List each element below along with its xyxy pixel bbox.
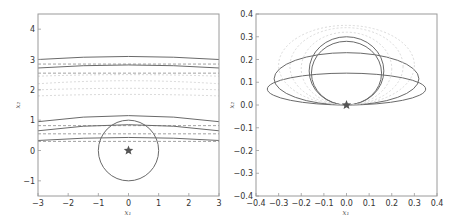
series-circle-inner-2 (309, 37, 384, 105)
x-tick-label: 3 (216, 199, 221, 208)
series-ellipse-faint-3 (279, 25, 415, 105)
y-tick-label: 0.4 (240, 10, 253, 19)
chart-figure: −3−2−10123−101234 −0.4−0.3−0.2−0.10.00.1… (0, 0, 461, 224)
y-tick-label: 2 (30, 86, 35, 95)
star-marker-icon (124, 146, 134, 155)
x-tick-label: −0.3 (269, 199, 288, 208)
x-tick-label: 0.4 (431, 199, 444, 208)
series-upper-faint-4 (38, 94, 219, 96)
y-tick-label: 3 (30, 56, 35, 65)
x-tick-label: −0.2 (292, 199, 311, 208)
y-tick-label: −0.3 (234, 169, 253, 178)
left-plot: −3−2−10123−101234 (23, 14, 221, 208)
y-tick-label: 0 (30, 147, 35, 156)
x-tick-label: −3 (32, 199, 44, 208)
series-lower-faint (38, 116, 219, 122)
series-ellipse-faint-1 (301, 32, 392, 105)
x-tick-label: 0.3 (408, 199, 421, 208)
y-tick-label: 0.3 (240, 33, 253, 42)
y-tick-label: 0.2 (240, 56, 253, 65)
x-tick-label: −1 (92, 199, 104, 208)
series-ellipse-faint-2 (290, 28, 403, 105)
x-tick-label: 2 (186, 199, 191, 208)
x-tick-label: 1 (156, 199, 161, 208)
y-tick-label: −0.1 (234, 124, 253, 133)
y-tick-label: −0.4 (234, 192, 253, 201)
right-plot: −0.4−0.3−0.2−0.10.00.10.20.30.4−0.4−0.3−… (234, 10, 444, 208)
series-upper-solid-dark (38, 56, 219, 59)
y-tick-label: −0.2 (234, 147, 253, 156)
y-tick-label: 0.0 (240, 101, 253, 110)
left-ylabel: x₂ (14, 101, 22, 108)
series-upper-solid-2 (38, 65, 219, 68)
y-tick-label: 4 (30, 25, 35, 34)
series-upper-faint-1 (38, 75, 219, 77)
left-xlabel: x₁ (125, 209, 132, 217)
x-tick-label: 0.1 (363, 199, 376, 208)
series-ellipse-mid (274, 53, 419, 105)
plot-frame (38, 14, 219, 196)
y-tick-label: −1 (23, 177, 35, 186)
x-tick-label: −2 (62, 199, 74, 208)
x-tick-label: 0.2 (385, 199, 398, 208)
x-tick-label: −0.1 (314, 199, 333, 208)
series-upper-faint-2 (38, 81, 219, 84)
right-xlabel: x₁ (343, 209, 350, 217)
y-tick-label: 1 (30, 116, 35, 125)
right-ylabel: x₂ (228, 101, 236, 108)
star-marker-icon (342, 100, 352, 109)
series-lower-solid-2 (38, 137, 219, 140)
x-tick-label: 0 (126, 199, 131, 208)
series-upper-faint-3 (38, 88, 219, 90)
y-tick-label: 0.1 (240, 78, 253, 87)
x-tick-label: 0.0 (340, 199, 353, 208)
